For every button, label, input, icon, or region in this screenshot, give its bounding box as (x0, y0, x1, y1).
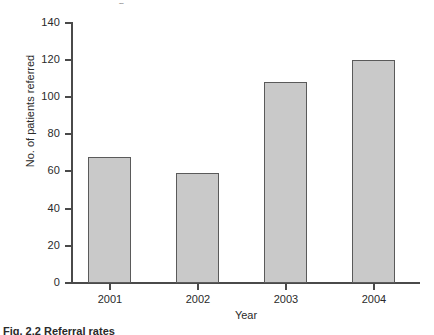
x-tick-mark-2002 (197, 284, 199, 290)
x-tick-label-2004: 2004 (339, 293, 409, 305)
bar-2002 (176, 173, 219, 283)
y-tick-mark-60 (65, 170, 72, 172)
y-tick-label-40: 40 (0, 203, 60, 214)
y-tick-mark-40 (65, 208, 72, 210)
y-tick-mark-20 (65, 245, 72, 247)
bar-2001 (88, 157, 131, 283)
x-tick-label-2003: 2003 (251, 293, 321, 305)
y-tick-mark-0 (65, 282, 72, 284)
x-tick-mark-2003 (285, 284, 287, 290)
figure-caption: Fig. 2.2 Referral rates (3, 325, 243, 335)
bar-2004 (352, 60, 395, 283)
x-tick-mark-2004 (373, 284, 375, 290)
x-axis-title: Year (72, 309, 420, 321)
y-tick-mark-100 (65, 96, 72, 98)
y-tick-mark-140 (65, 22, 72, 24)
y-tick-label-0: 0 (0, 277, 60, 288)
y-axis-title: No. of patients referred (24, 26, 36, 196)
y-tick-label-20: 20 (0, 240, 60, 251)
bar-2003 (264, 82, 307, 283)
x-tick-label-2002: 2002 (163, 293, 233, 305)
figure-container: g 0 20 40 60 80 100 120 140 2001 2002 20… (0, 0, 434, 335)
x-tick-label-2001: 2001 (75, 293, 145, 305)
x-tick-mark-2001 (109, 284, 111, 290)
y-tick-mark-120 (65, 59, 72, 61)
clipped-top-text: g (118, 0, 158, 4)
y-tick-mark-80 (65, 133, 72, 135)
